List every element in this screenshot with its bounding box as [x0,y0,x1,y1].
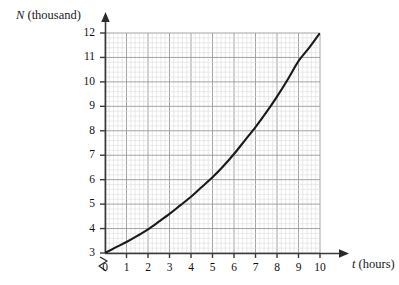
x-tick-label: 0 [96,262,114,274]
y-axis-title-unit: (thousand) [27,8,80,22]
y-tick-label: 7 [75,149,95,161]
x-tick-label: 8 [268,262,286,274]
x-axis-title-unit: (hours) [359,257,395,271]
y-tick-label: 6 [75,174,95,186]
y-tick-label: 8 [75,125,95,137]
x-tick-label: 5 [204,262,222,274]
x-tick-label: 7 [247,262,265,274]
y-tick-label: 3 [75,247,95,259]
chart-figure: N (thousand) t (hours) 1211109876543 012… [0,0,399,285]
x-tick-label: 6 [225,262,243,274]
x-axis-title: t (hours) [352,258,395,271]
plot-area [0,0,399,285]
y-tick-label: 10 [75,76,95,88]
y-tick-label: 4 [75,223,95,235]
x-tick-label: 9 [290,262,308,274]
y-tick-label: 11 [75,51,95,63]
x-tick-label: 3 [161,262,179,274]
x-tick-label: 4 [182,262,200,274]
y-tick-label: 9 [75,100,95,112]
x-axis-arrowhead [339,249,349,257]
x-tick-label: 2 [139,262,157,274]
y-axis-arrowhead [101,12,109,22]
y-axis-title: N (thousand) [16,9,81,22]
x-axis-title-symbol: t [352,257,355,271]
x-tick-label: 1 [118,262,136,274]
y-tick-label: 5 [75,198,95,210]
x-tick-label: 10 [311,262,329,274]
y-tick-label: 12 [75,27,95,39]
y-axis-title-symbol: N [16,8,24,22]
